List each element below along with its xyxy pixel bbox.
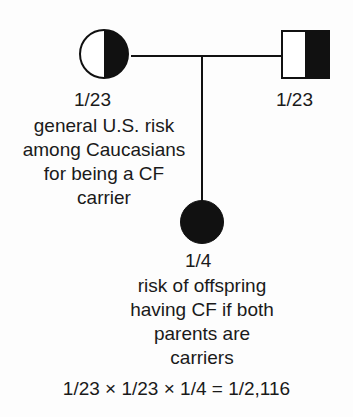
caption-line: general U.S. risk [6, 114, 202, 138]
father-symbol-square-half-filled [281, 30, 330, 79]
pedigree-diagram: 1/23 1/23 1/4 general U.S. risk among Ca… [0, 0, 353, 417]
caption-line: parents are [54, 322, 350, 346]
mating-line [131, 55, 281, 57]
mother-symbol-circle-half-filled [79, 29, 129, 79]
caption-line: risk of offspring [54, 274, 350, 298]
caption-line: carrier [6, 186, 202, 210]
caption-line: for being a CF [6, 162, 202, 186]
mother-risk-label: 1/23 [74, 89, 111, 111]
probability-equation: 1/23 × 1/23 × 1/4 = 1/2,116 [0, 377, 353, 401]
offspring-caption-block: risk of offspring having CF if both pare… [54, 274, 350, 370]
caption-line: among Caucasians [6, 138, 202, 162]
father-risk-label: 1/23 [276, 89, 313, 111]
caption-line: having CF if both [54, 298, 350, 322]
mother-caption-block: general U.S. risk among Caucasians for b… [6, 114, 202, 210]
caption-line: carriers [54, 346, 350, 370]
offspring-risk-label: 1/4 [185, 250, 211, 272]
